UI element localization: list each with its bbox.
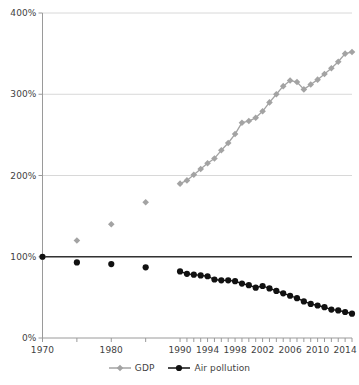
x-axis-ticks: [43, 338, 353, 342]
data-point: [117, 365, 124, 372]
line-chart-plot: [0, 0, 359, 385]
gridlines: [43, 13, 353, 257]
x-tick-label-1980: 1980: [91, 345, 131, 355]
chart-container: 0%100%200%300%400% 197019801990199419982…: [0, 0, 359, 385]
data-point: [239, 119, 246, 126]
y-axis-ticks: [39, 13, 43, 338]
legend-item-gdp[interactable]: GDP: [109, 363, 155, 373]
data-point: [301, 298, 307, 304]
data-point: [259, 283, 265, 289]
data-point: [191, 272, 197, 278]
data-point: [280, 290, 286, 296]
data-point: [308, 301, 314, 307]
data-point: [349, 311, 355, 317]
legend-item-air-pollution[interactable]: Air pollution: [168, 363, 250, 373]
data-point: [239, 280, 245, 286]
data-point: [218, 277, 224, 283]
data-point: [108, 261, 114, 267]
data-point: [142, 199, 149, 206]
data-point: [342, 309, 348, 315]
data-point: [273, 288, 279, 294]
data-point: [246, 282, 252, 288]
data-point: [253, 285, 259, 291]
data-point: [74, 237, 81, 244]
data-point: [177, 268, 183, 274]
data-point: [287, 293, 293, 299]
data-point: [315, 302, 321, 308]
data-point: [335, 307, 341, 313]
legend-circle-marker-icon: [168, 363, 190, 373]
data-point: [198, 272, 204, 278]
y-tick-label-300: 300%: [1, 89, 37, 99]
y-tick-label-400: 400%: [1, 8, 37, 18]
legend-label: GDP: [135, 363, 155, 373]
data-point: [177, 180, 184, 187]
data-point: [143, 264, 149, 270]
data-point: [246, 118, 253, 125]
data-point: [39, 254, 45, 260]
y-tick-label-200: 200%: [1, 171, 37, 181]
legend-diamond-marker-icon: [109, 363, 131, 373]
x-tick-label-1970: 1970: [23, 345, 63, 355]
data-point: [74, 259, 80, 265]
data-point: [211, 276, 217, 282]
data-point: [328, 306, 334, 312]
data-point: [204, 273, 210, 279]
x-tick-label-2014: 2014: [325, 345, 359, 355]
data-point: [108, 221, 115, 228]
y-tick-label-100: 100%: [1, 252, 37, 262]
data-point: [176, 365, 182, 371]
series-gdp-markers: [39, 49, 355, 260]
y-tick-label-0: 0%: [1, 333, 37, 343]
chart-legend: GDPAir pollution: [0, 363, 359, 373]
series-air-pollution-markers: [39, 254, 355, 317]
data-point: [184, 271, 190, 277]
data-point: [266, 285, 272, 291]
data-point: [321, 304, 327, 310]
data-point: [349, 49, 356, 56]
data-point: [232, 278, 238, 284]
legend-label: Air pollution: [194, 363, 250, 373]
data-point: [225, 277, 231, 283]
data-point: [294, 295, 300, 301]
